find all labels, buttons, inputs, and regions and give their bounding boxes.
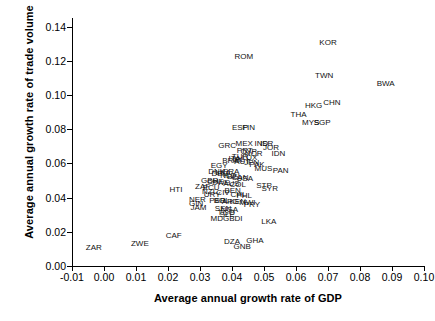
data-point-label: BDI <box>229 215 242 223</box>
x-axis-title: Average annual growth rate of GDP <box>72 292 424 304</box>
y-tick-label: 0.14 <box>26 22 66 32</box>
y-tick <box>67 27 72 28</box>
y-tick-label: 0.02 <box>26 227 66 237</box>
y-tick <box>67 198 72 199</box>
data-point-label: MUS <box>254 165 272 173</box>
x-axis-line <box>72 266 424 267</box>
data-point-label: GNB <box>234 243 251 251</box>
y-tick-label: 0.12 <box>26 56 66 66</box>
plot-area: 0.000.020.040.060.080.100.120.14 -0.010.… <box>72 18 424 266</box>
data-point-label: HTI <box>170 186 183 194</box>
data-point-label: KOR <box>319 39 336 47</box>
y-tick <box>67 232 72 233</box>
y-tick-label: 0.08 <box>26 124 66 134</box>
data-point-label: PRY <box>244 201 260 209</box>
data-point-label: CHN <box>323 99 340 107</box>
data-point-label: LKA <box>261 218 276 226</box>
data-point-label: ROM <box>234 53 253 61</box>
data-point-label: BWA <box>377 80 395 88</box>
x-tick-label: 0.10 <box>402 272 435 283</box>
y-tick-label: 0.06 <box>26 158 66 168</box>
data-point-label: TWN <box>315 72 333 80</box>
data-point-label: ZWE <box>131 240 149 248</box>
data-point-label: SYR <box>262 185 278 193</box>
data-point-label: ZAR <box>86 244 102 252</box>
y-tick <box>67 129 72 130</box>
y-tick <box>67 163 72 164</box>
y-axis-line <box>72 18 73 266</box>
data-point-label: GRC <box>218 142 236 150</box>
y-tick <box>67 95 72 96</box>
data-point-label: FIN <box>242 124 255 132</box>
y-tick-label: 0.10 <box>26 90 66 100</box>
data-point-label: MDG <box>210 215 229 223</box>
y-tick-label: 0.00 <box>26 261 66 271</box>
data-point-label: PAN <box>273 167 289 175</box>
data-point-label: CAF <box>166 232 182 240</box>
data-point-label: IDN <box>272 150 286 158</box>
y-tick-label: 0.04 <box>26 193 66 203</box>
data-point-label: JAM <box>190 204 206 212</box>
data-point-label: HKG <box>305 102 322 110</box>
y-tick <box>67 61 72 62</box>
data-point-label: SGP <box>314 119 331 127</box>
scatter-plot-figure: Average annual growth rate of trade volu… <box>0 0 435 321</box>
